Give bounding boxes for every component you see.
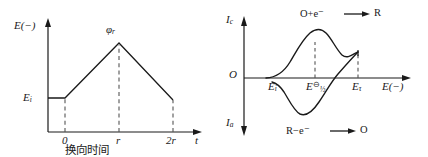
- panel-cyclic-voltammogram: Ic Ia O Ei E⊖½ Eτ E(−) O+e⁻ R R−e⁻ O: [214, 0, 428, 157]
- x-tick-label-etau: Eτ: [352, 81, 361, 93]
- y-axis-label-anodic: Ia: [226, 117, 233, 129]
- anodic-reaction-product: O: [360, 124, 368, 135]
- y-axis-label: E(−): [14, 20, 35, 31]
- x-tick-label-ei: Ei: [268, 81, 277, 93]
- cathodic-reaction-product: R: [374, 7, 381, 18]
- x-tick-label-ehalf: E⊖½: [306, 81, 325, 93]
- x-axis-label: t: [195, 135, 198, 146]
- anodic-reaction-reactant: R−e⁻: [286, 124, 310, 136]
- origin-label: O: [229, 69, 237, 80]
- y-axis-arrowhead: [45, 18, 51, 27]
- x-axis-label: E(−): [382, 81, 403, 92]
- anodic-reaction-arrow-head: [348, 128, 356, 134]
- y-axis-arrowhead-up: [241, 16, 247, 26]
- y-tick-label-ei: Ei: [23, 92, 32, 104]
- y-axis-arrowhead-down: [241, 126, 247, 136]
- cathodic-reaction-arrow-head: [362, 11, 370, 17]
- cyclic-voltammogram-plot: [214, 0, 428, 157]
- cathodic-reaction-reactant: O+e⁻: [300, 7, 324, 19]
- potential-waveform-trace: [48, 43, 173, 100]
- panel-potential-waveform: E(−) Ei φr 0 r 2r t 换向时间: [0, 0, 214, 157]
- panel-caption-reversal-time: 换向时间: [65, 141, 109, 157]
- y-axis-label-cathodic: Ic: [226, 14, 233, 26]
- cathodic-forward-trace: [266, 30, 358, 78]
- figure-container: E(−) Ei φr 0 r 2r t 换向时间: [0, 0, 428, 157]
- x-tick-label-r: r: [116, 135, 120, 146]
- x-tick-label-2r: 2r: [166, 135, 176, 146]
- peak-label-phi-r: φr: [106, 24, 115, 36]
